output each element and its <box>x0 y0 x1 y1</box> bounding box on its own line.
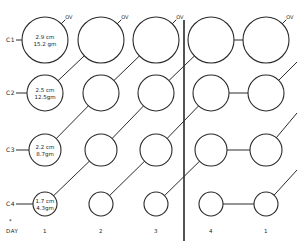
lineage-line <box>56 106 88 139</box>
lineage-line <box>54 161 90 196</box>
cell-weight: 4.3gm <box>36 205 54 212</box>
cell-size: 2.2 cm <box>36 144 55 150</box>
cell-circle <box>22 17 68 63</box>
ov-tick <box>61 20 65 24</box>
lineage-line <box>279 62 297 80</box>
lineage-line <box>274 170 297 195</box>
row-label: C2 <box>6 89 15 96</box>
cell-circle <box>243 17 289 63</box>
ov-tick <box>282 20 286 24</box>
cell-circle <box>199 192 223 216</box>
cell-weight: 8.7gm <box>36 151 54 158</box>
cell-size: 1.7 cm <box>36 198 55 204</box>
cell-circle <box>27 75 63 111</box>
lineage-line <box>58 56 84 81</box>
cell-circle <box>138 75 174 111</box>
day-marker: * <box>9 218 12 224</box>
day-number: 1 <box>43 228 47 234</box>
cell-circle <box>89 192 113 216</box>
cell-circle <box>250 134 282 166</box>
cell-circle <box>78 17 124 63</box>
row-label: C1 <box>6 36 15 43</box>
ov-tick <box>172 20 176 24</box>
lineage-line <box>114 56 139 81</box>
day-number: 3 <box>154 228 158 234</box>
ov-label: OV <box>176 14 184 20</box>
ov-label: OV <box>286 14 294 20</box>
ov-label: OV <box>65 14 73 20</box>
day-number: 4 <box>209 228 213 234</box>
lineage-line <box>165 161 200 195</box>
cell-circle <box>144 192 168 216</box>
day-number: 1 <box>264 228 268 234</box>
growth-diagram: C12.9 cm15.2 gmC22.5 cm12.5gmC32.2 cm8.7… <box>0 0 306 243</box>
cell-circle <box>140 134 172 166</box>
row-label: C3 <box>6 146 15 153</box>
lineage-line <box>169 56 194 81</box>
cell-circle <box>188 17 234 63</box>
lineage-line <box>110 161 145 195</box>
cell-circle <box>248 75 284 111</box>
cell-circle <box>83 75 119 111</box>
cell-size: 2.5 cm <box>36 87 55 93</box>
ov-tick <box>117 20 121 24</box>
cell-circle <box>33 192 57 216</box>
cell-circle <box>254 192 278 216</box>
day-label: DAY <box>6 228 18 234</box>
cell-weight: 15.2 gm <box>34 41 57 48</box>
lineage-line <box>112 106 143 139</box>
ov-label: OV <box>121 14 129 20</box>
lineage-line <box>167 106 198 139</box>
cell-circle <box>133 17 179 63</box>
cell-circle <box>29 134 61 166</box>
day-number: 2 <box>99 228 103 234</box>
cell-circle <box>195 134 227 166</box>
lineage-line <box>276 113 297 138</box>
cell-circle <box>193 75 229 111</box>
row-label: C4 <box>6 200 15 207</box>
cell-circle <box>85 134 117 166</box>
cell-weight: 12.5gm <box>34 94 55 101</box>
cell-size: 2.9 cm <box>36 34 55 40</box>
